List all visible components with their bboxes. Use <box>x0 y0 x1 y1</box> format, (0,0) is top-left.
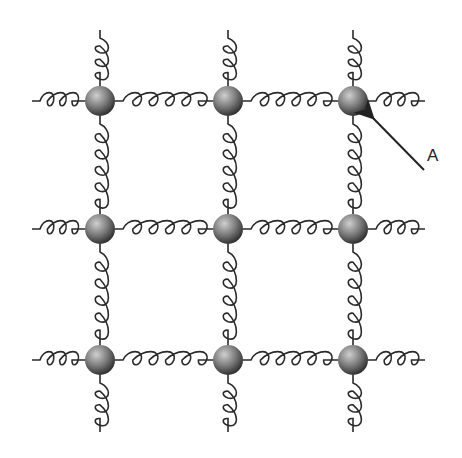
spring-edge-top <box>348 30 361 86</box>
spring-vertical <box>348 116 361 214</box>
spring-edge-bottom <box>348 375 361 432</box>
ball-r2-c2 <box>213 214 243 244</box>
ball-r1-c2 <box>213 86 243 116</box>
spring-edge-right <box>368 93 425 106</box>
spring-vertical <box>95 244 108 345</box>
spring-edge-left <box>32 352 85 365</box>
ball-r1-c3 <box>338 86 368 116</box>
spring-edge-top <box>223 30 236 86</box>
spring-edge-right <box>368 352 425 365</box>
spring-edge-right <box>368 221 425 234</box>
spring-edge-bottom <box>95 375 108 432</box>
label-a: A <box>427 146 438 166</box>
ball-r3-c1 <box>85 345 115 375</box>
spring-horizontal <box>243 352 338 365</box>
spring-horizontal <box>115 352 213 365</box>
spring-edge-top <box>95 30 108 86</box>
spring-horizontal <box>243 93 338 106</box>
spring-lattice-diagram <box>0 0 462 458</box>
ball-r2-c3 <box>338 214 368 244</box>
spring-horizontal <box>115 221 213 234</box>
spring-vertical <box>95 116 108 214</box>
spring-vertical <box>223 116 236 214</box>
spring-vertical <box>348 244 361 345</box>
ball-r3-c2 <box>213 345 243 375</box>
balls-group <box>85 86 368 375</box>
ball-r3-c3 <box>338 345 368 375</box>
spring-vertical <box>223 244 236 345</box>
ball-r1-c1 <box>85 86 115 116</box>
arrow-to-ball <box>372 117 424 170</box>
spring-edge-left <box>32 93 85 106</box>
spring-edge-left <box>32 221 85 234</box>
spring-horizontal <box>243 221 338 234</box>
ball-r2-c1 <box>85 214 115 244</box>
spring-edge-bottom <box>223 375 236 432</box>
spring-horizontal <box>115 93 213 106</box>
